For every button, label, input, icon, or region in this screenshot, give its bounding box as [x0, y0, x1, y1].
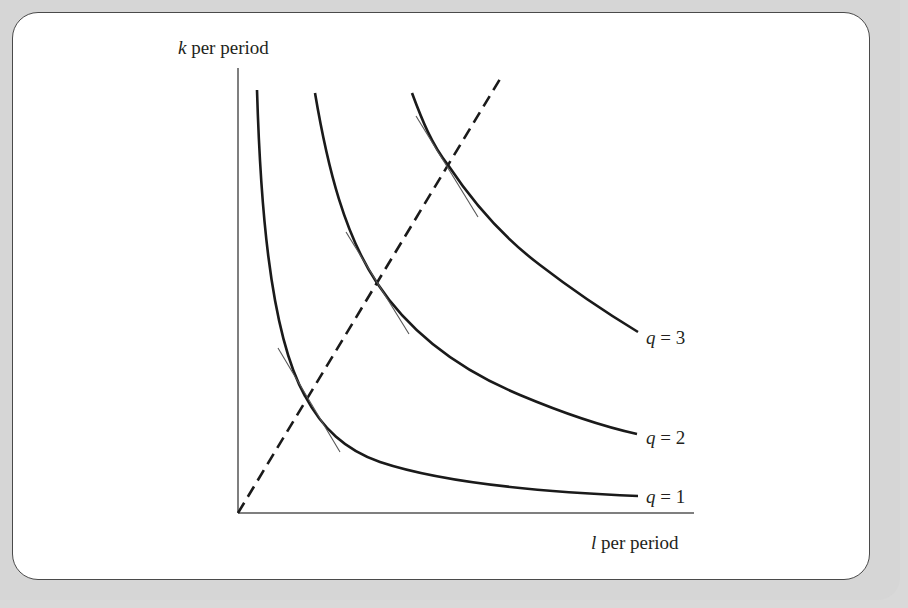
expansion-path-dashed [238, 79, 500, 513]
label-q2: q = 2 [646, 427, 685, 448]
isoquant-q2 [315, 93, 637, 434]
label-q3: q = 3 [646, 327, 685, 348]
label-q1: q = 1 [646, 486, 685, 507]
tangent-q1 [278, 348, 340, 452]
y-axis-label: k per period [178, 37, 269, 58]
x-axis-label: l per period [591, 532, 679, 553]
isoquant-q3 [412, 93, 638, 332]
isoquant-q1 [257, 90, 638, 496]
isoquant-diagram: k per period l per period q = 3 q = 2 q … [0, 0, 908, 608]
